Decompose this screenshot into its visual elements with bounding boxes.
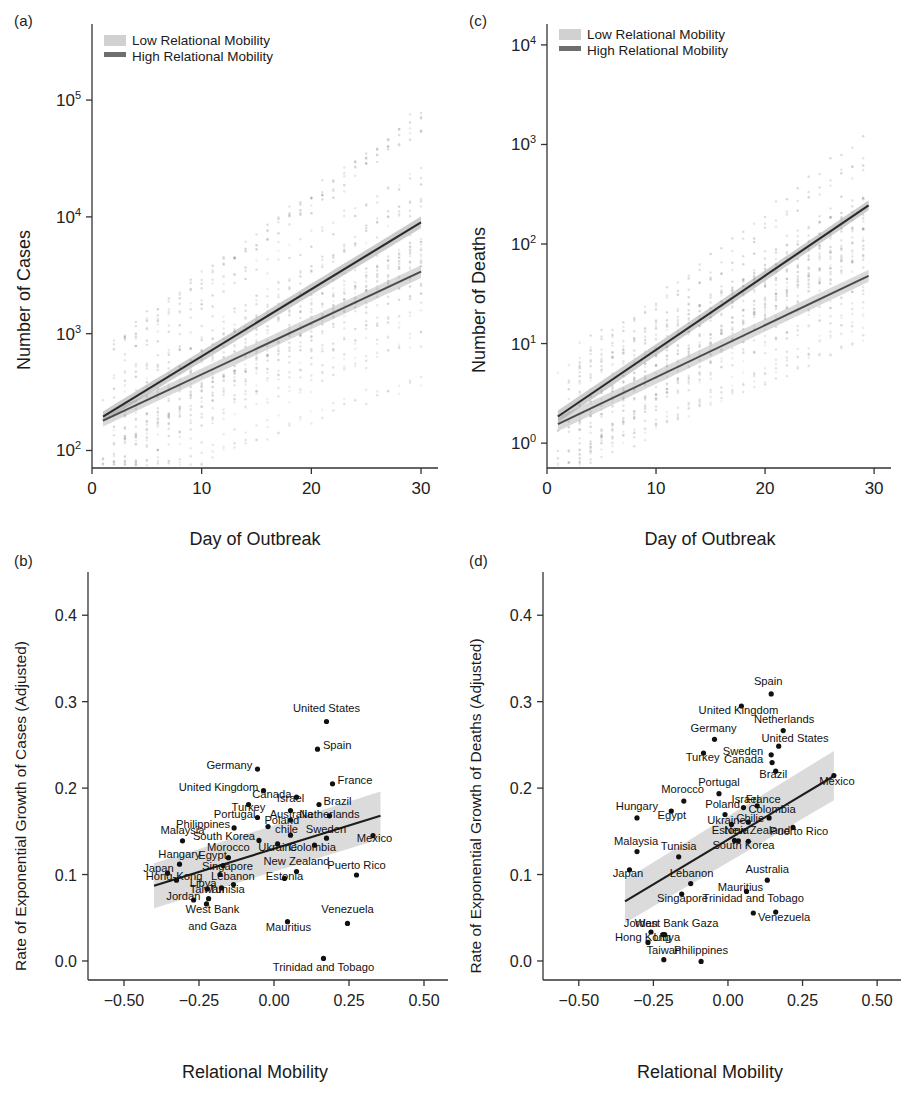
- x-tick-label: 0.50: [408, 992, 439, 1009]
- y-tick-label: 0.1: [55, 867, 77, 884]
- y-tick-label: 0.2: [55, 780, 77, 797]
- panel-b-svg: United StatesSpainGermanyFranceUnited Ki…: [0, 546, 455, 1106]
- x-tick-label: −0.50: [559, 992, 600, 1009]
- point-label: Ukraine: [258, 841, 297, 853]
- y-tick-label: 104: [511, 34, 536, 55]
- point-label: United States: [293, 702, 361, 714]
- point-label: Germany: [691, 722, 737, 734]
- data-point: [330, 781, 335, 786]
- point-label: Mexico: [357, 832, 392, 844]
- data-point: [634, 815, 639, 820]
- x-tick-label: 20: [756, 479, 775, 498]
- legend-label-high: High Relational Mobility: [132, 49, 273, 64]
- x-tick-label: −0.25: [179, 992, 220, 1009]
- point-label: Hungary: [616, 800, 659, 812]
- point-label: Germany: [206, 759, 252, 771]
- data-point: [177, 862, 182, 867]
- panel-c-ylabel: Number of Deaths: [469, 227, 489, 373]
- y-tick-label: 0.0: [55, 953, 77, 970]
- panel-a-svg: 0102030102103104105 Low Relational Mobil…: [0, 0, 455, 560]
- y-tick-label: 102: [56, 439, 81, 460]
- y-tick-label: 0.3: [510, 694, 532, 711]
- x-tick-label: 10: [192, 479, 211, 498]
- point-label: Mauritius: [266, 921, 312, 933]
- panel-b: (b) United StatesSpainGermanyFranceUnite…: [0, 546, 455, 1106]
- panel-b-ylabel: Rate of Exponential Growth of Cases (Adj…: [12, 641, 29, 971]
- point-label: Turkey: [686, 751, 720, 763]
- panel-d-xlabel: Relational Mobility: [637, 1062, 783, 1082]
- data-point: [676, 854, 681, 859]
- point-label: Venezuela: [321, 903, 374, 915]
- point-label: Lebanon: [670, 867, 714, 879]
- data-point: [712, 737, 717, 742]
- data-point: [634, 849, 639, 854]
- point-label: Lebanon: [211, 870, 255, 882]
- y-tick-label: 102: [511, 233, 536, 254]
- panel-d-svg: SpainUnited KingdomNetherlandsGermanyUni…: [455, 546, 909, 1106]
- x-tick-label: 10: [647, 479, 666, 498]
- data-point: [716, 791, 721, 796]
- point-label: Trinidad and Tobago: [703, 892, 804, 904]
- panel-d-point-labels: SpainUnited KingdomNetherlandsGermanyUni…: [613, 675, 855, 956]
- y-tick-label: 101: [511, 333, 536, 354]
- point-label: chile: [275, 823, 298, 835]
- panel-c-ci-bands: [558, 200, 869, 431]
- point-label: Portugal: [698, 776, 740, 788]
- figure-root: (a) 0102030102103104105 Low Relational M…: [0, 0, 909, 1106]
- panel-d-tag: (d): [469, 552, 488, 569]
- x-tick-label: −0.25: [633, 992, 674, 1009]
- data-point: [776, 744, 781, 749]
- data-point: [661, 957, 666, 962]
- point-label: South Korea: [712, 839, 775, 851]
- point-label: France: [338, 774, 373, 786]
- x-tick-label: 0.25: [333, 992, 364, 1009]
- y-tick-label: 0.0: [510, 953, 532, 970]
- point-label: Puerto Rico: [327, 859, 385, 871]
- panel-c-legend: Low Relational MobilityHigh Relational M…: [559, 27, 728, 58]
- data-point: [751, 910, 756, 915]
- point-label: Australia: [746, 863, 790, 875]
- point-label: Mexico: [819, 775, 854, 787]
- point-label: Brazil: [759, 768, 787, 780]
- data-point: [765, 878, 770, 883]
- panel-b-tag: (b): [14, 552, 33, 569]
- point-label: Egypt: [658, 809, 687, 821]
- data-point: [769, 752, 774, 757]
- data-point: [255, 767, 260, 772]
- point-label: Brazil: [324, 795, 352, 807]
- data-point: [321, 956, 326, 961]
- point-label: Tunisia: [661, 840, 697, 852]
- x-tick-label: −0.50: [104, 992, 145, 1009]
- point-label: New Zealand: [724, 824, 790, 836]
- panel-a-tag: (a): [14, 12, 33, 29]
- y-tick-label: 0.4: [510, 607, 532, 624]
- y-tick-label: 100: [511, 432, 536, 453]
- panel-a-ylabel: Number of Cases: [14, 230, 34, 370]
- data-point: [770, 760, 775, 765]
- fit-line-low: [103, 272, 421, 421]
- point-label: Israel: [277, 792, 304, 804]
- data-point: [769, 691, 774, 696]
- point-label: Singapore: [657, 892, 708, 904]
- legend-swatch-high: [559, 46, 581, 51]
- point-label: Venezuela: [758, 911, 811, 923]
- point-label: Libya: [653, 931, 681, 943]
- legend-label-low: Low Relational Mobility: [132, 33, 270, 48]
- point-label: Malaysia: [614, 835, 659, 847]
- data-point: [681, 799, 686, 804]
- data-point: [180, 838, 185, 843]
- legend-swatch-low: [104, 35, 126, 46]
- panel-d: (d) SpainUnited KingdomNetherlandsGerman…: [455, 546, 909, 1106]
- point-label: Spain: [323, 739, 352, 751]
- point-label: Estonia: [266, 870, 304, 882]
- x-tick-label: 20: [302, 479, 321, 498]
- legend-label-high: High Relational Mobility: [587, 43, 728, 58]
- point-label: Mauritius: [718, 881, 764, 893]
- fit-line-high: [103, 222, 421, 416]
- legend-label-low: Low Relational Mobility: [587, 27, 725, 42]
- point-label: Egypt: [198, 849, 227, 861]
- point-label: Trinidad and Tobago: [273, 961, 374, 973]
- y-tick-label: 0.2: [510, 780, 532, 797]
- data-point: [206, 896, 211, 901]
- data-point: [741, 805, 746, 810]
